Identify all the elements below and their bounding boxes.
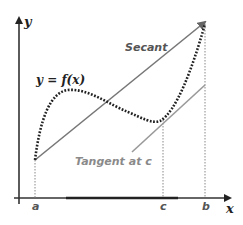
y-axis-label: y — [23, 14, 33, 29]
tangent-line — [132, 85, 205, 152]
secant-label: Secant — [125, 41, 168, 54]
point-b-label: b — [202, 200, 210, 213]
x-axis-label: x — [225, 201, 234, 216]
secant-line — [35, 22, 205, 160]
tangent-label: Tangent at c — [75, 155, 152, 168]
function-label: y = f(x) — [35, 73, 85, 87]
point-a-label: a — [32, 200, 39, 213]
diagram-svg: y x y = f(x) Secant Tangent at c a c b — [0, 0, 243, 225]
point-c-label: c — [160, 200, 167, 213]
mvt-diagram: y x y = f(x) Secant Tangent at c a c b — [0, 0, 243, 225]
